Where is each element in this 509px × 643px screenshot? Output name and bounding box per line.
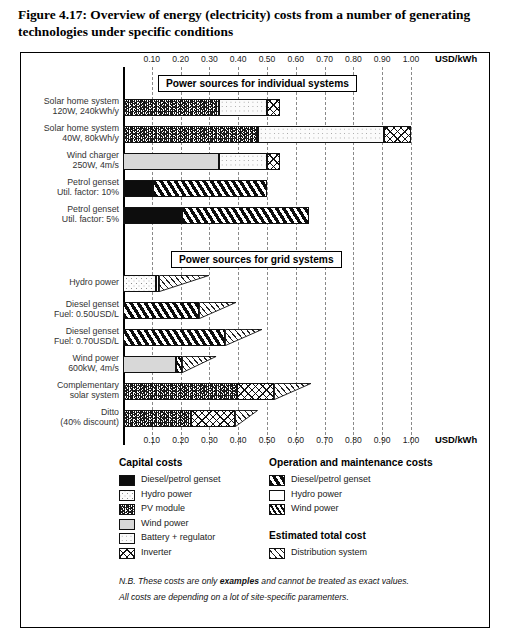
bar-segment: [123, 126, 258, 143]
bar-segment-wedge: [235, 410, 258, 427]
bar-segment-outline: [199, 302, 236, 319]
bar-segment: [219, 153, 267, 170]
legend-swatch-icon: [119, 490, 135, 501]
bar-segment: [153, 180, 267, 197]
x-axis-unit-bottom: USD/kWh: [435, 434, 477, 445]
table-row[interactable]: [21, 302, 491, 319]
table-row[interactable]: [21, 207, 491, 224]
bar-segment: [182, 207, 309, 224]
bar-segment: [123, 356, 176, 373]
bar-segment: [237, 383, 274, 400]
legend-swatch-icon: [119, 504, 135, 515]
legend-swatch-icon: [269, 548, 285, 559]
bar-segment-wedge: [274, 383, 311, 400]
legend-item-label: Wind power: [141, 518, 189, 528]
bar-segment: [123, 275, 156, 292]
figure-frame: 0.100.200.300.400.500.600.700.800.901.00…: [20, 52, 490, 628]
bar-segment: [258, 126, 383, 143]
bar-segment-wedge: [225, 329, 262, 346]
table-row[interactable]: [21, 356, 491, 373]
note-text: and cannot be treated as exact values.: [259, 576, 409, 586]
bar-segment-outline: [225, 329, 262, 346]
bar-segment: [267, 153, 280, 170]
bar-segment: [123, 329, 225, 346]
chart-legend: Capital costs Diesel/petrol gensetHydro …: [21, 453, 491, 629]
chart-plot-area: 0.100.200.300.400.500.600.700.800.901.00…: [21, 53, 491, 453]
legend-item-label: Wind power: [291, 503, 339, 513]
note-line-2: All costs are depending on a lot of site…: [119, 592, 349, 602]
figure-caption: Figure 4.17: Overview of energy (electri…: [18, 6, 496, 40]
legend-item-label: Hydro power: [141, 489, 192, 499]
legend-title-total: Estimated total cost: [269, 530, 366, 541]
bar-segment-outline: [274, 383, 311, 400]
table-row[interactable]: [21, 410, 491, 427]
bar-segment-wedge: [199, 302, 236, 319]
legend-swatch-icon: [119, 548, 135, 559]
note-emphasis: examples: [220, 576, 259, 586]
bar-segment-wedge: [159, 275, 209, 292]
bar-segment-wedge: [182, 356, 217, 373]
bar-segment: [219, 99, 267, 116]
legend-item-label: Hydro power: [291, 489, 342, 499]
table-row[interactable]: [21, 180, 491, 197]
bar-segment-outline: [235, 410, 258, 427]
bar-segment-outline: [182, 356, 217, 373]
x-tick-label: 1.00: [391, 435, 431, 445]
legend-item-label: PV module: [141, 503, 185, 513]
bar-segment: [384, 126, 411, 143]
x-tick-label: 1.00: [391, 54, 431, 64]
bar-segment: [123, 180, 153, 197]
figure-page: Figure 4.17: Overview of energy (electri…: [0, 0, 509, 643]
bar-segment: [123, 302, 199, 319]
table-row[interactable]: [21, 275, 491, 292]
legend-item-label: Inverter: [141, 547, 172, 557]
table-row[interactable]: [21, 126, 491, 143]
bar-segment: [191, 410, 236, 427]
legend-item-label: Battery + regulator: [141, 532, 215, 542]
legend-title-capital: Capital costs: [119, 457, 182, 468]
legend-item-label: Diesel/petrol genset: [141, 474, 221, 484]
section-header-individual: Power sources for individual systems: [158, 75, 357, 92]
legend-swatch-icon: [269, 475, 285, 486]
legend-item-label: Distribution system: [291, 547, 367, 557]
bar-segment: [267, 99, 280, 116]
bar-segment: [123, 410, 191, 427]
legend-swatch-icon: [119, 533, 135, 544]
bar-segment: [123, 99, 219, 116]
bar-segment: [123, 153, 219, 170]
table-row[interactable]: [21, 329, 491, 346]
bar-segment-outline: [159, 275, 209, 292]
x-axis-unit-top: USD/kWh: [435, 53, 477, 64]
legend-swatch-icon: [119, 475, 135, 486]
legend-swatch-icon: [269, 504, 285, 515]
legend-swatch-icon: [269, 490, 285, 501]
legend-item-label: Diesel/petrol genset: [291, 474, 371, 484]
legend-swatch-icon: [119, 519, 135, 530]
table-row[interactable]: [21, 383, 491, 400]
table-row[interactable]: [21, 99, 491, 116]
note-line-1: N.B. These costs are only examples and c…: [119, 576, 409, 586]
bar-segment: [123, 383, 237, 400]
table-row[interactable]: [21, 153, 491, 170]
bar-segment: [123, 207, 182, 224]
section-header-grid: Power sources for grid systems: [171, 251, 342, 268]
note-text: N.B. These costs are only: [119, 576, 220, 586]
legend-title-om: Operation and maintenance costs: [269, 457, 433, 468]
